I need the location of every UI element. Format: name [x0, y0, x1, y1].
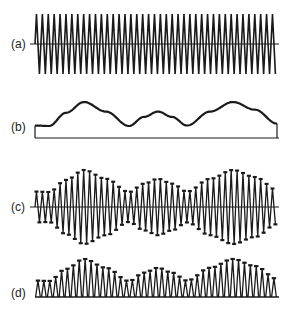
carrier-wave-panel [30, 14, 279, 74]
panel-label-c: (c) [11, 201, 25, 213]
modulating-signal-panel [35, 102, 279, 138]
panel-label-a: (a) [11, 38, 26, 50]
modulating-signal-curve [35, 102, 277, 126]
rectified-am-panel [35, 259, 279, 297]
panel-label-b: (b) [11, 121, 26, 133]
am-waveform-panel [30, 170, 279, 244]
am-modulation-diagram [0, 0, 293, 319]
panel-label-d: (d) [11, 287, 26, 299]
